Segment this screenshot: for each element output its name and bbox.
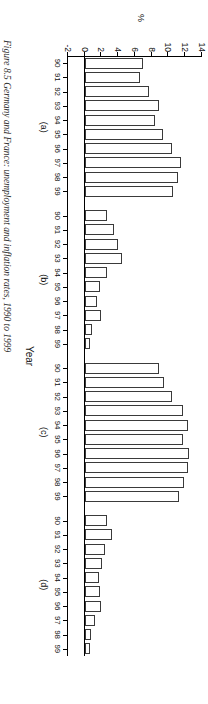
x-tick-label: 95 <box>53 282 61 291</box>
bar <box>85 296 98 307</box>
x-tick-label: 90 <box>53 364 61 373</box>
x-tick-label: 93 <box>53 559 61 568</box>
y-tick-label: 10 <box>164 43 173 52</box>
bar <box>85 572 99 583</box>
panel-label-b: (b) <box>39 274 48 285</box>
x-tick-label: 91 <box>53 225 61 234</box>
x-tick-label: 94 <box>53 573 61 582</box>
panel-label-d: (d) <box>39 579 48 590</box>
x-tick-label: 91 <box>53 378 61 387</box>
bar-chart-figure: % -20246810121490919293949596979899(a)90… <box>0 0 208 704</box>
x-tick-label: 98 <box>53 325 61 334</box>
x-tick-label: 93 <box>53 406 61 415</box>
y-tick-label: 0 <box>81 47 90 52</box>
bar <box>85 515 108 526</box>
bar <box>85 643 90 654</box>
bar <box>85 129 164 140</box>
plot-area: -20246810121490919293949596979899(a)9091… <box>68 56 202 656</box>
x-tick-label: 98 <box>53 630 61 639</box>
x-tick-label: 99 <box>53 339 61 348</box>
x-tick-label: 93 <box>53 101 61 110</box>
panel-label-c: (c) <box>39 427 48 438</box>
bar <box>85 186 173 197</box>
bar <box>85 405 183 416</box>
chart-panel-c: 90919293949596979899(c) <box>68 361 202 504</box>
y-axis-label: % <box>136 8 146 28</box>
panel-label-a: (a) <box>39 122 48 133</box>
x-tick-label: 98 <box>53 478 61 487</box>
x-tick-label: 96 <box>53 144 61 153</box>
bar <box>85 615 95 626</box>
bar <box>85 601 102 612</box>
rotated-page-wrapper: % -20246810121490919293949596979899(a)90… <box>0 0 208 704</box>
bar <box>85 491 180 502</box>
y-tick-label: 8 <box>148 47 157 52</box>
x-tick-label: 91 <box>53 73 61 82</box>
bar <box>85 224 114 235</box>
bar <box>85 310 101 321</box>
x-tick-label: 92 <box>53 392 61 401</box>
x-tick-label: 97 <box>53 463 61 472</box>
x-tick-label: 97 <box>53 311 61 320</box>
figure-caption: Figure 8.5 Germany and France: unemploym… <box>2 40 12 680</box>
x-tick-label: 90 <box>53 211 61 220</box>
bar <box>85 420 188 431</box>
y-tick-label: -2 <box>64 44 73 52</box>
y-tick-label: 4 <box>114 47 123 52</box>
y-tick-label: 2 <box>97 47 106 52</box>
bar <box>85 477 184 488</box>
bar <box>85 391 172 402</box>
x-tick-label: 96 <box>53 602 61 611</box>
x-tick-label: 92 <box>53 87 61 96</box>
x-tick-label: 94 <box>53 421 61 430</box>
x-tick-label: 99 <box>53 644 61 653</box>
bar <box>85 434 183 445</box>
x-tick-label: 92 <box>53 240 61 249</box>
x-tick-label: 95 <box>53 435 61 444</box>
bar <box>85 629 91 640</box>
x-tick-label: 95 <box>53 587 61 596</box>
x-tick-label: 94 <box>53 268 61 277</box>
chart-panel-d: 90919293949596979899(d) <box>68 514 202 657</box>
x-tick-label: 91 <box>53 530 61 539</box>
bar <box>85 544 105 555</box>
bar <box>85 267 108 278</box>
chart-panel-a: 90919293949596979899(a) <box>68 56 202 199</box>
bar <box>85 324 93 335</box>
bar <box>85 115 155 126</box>
bar <box>85 377 165 388</box>
bar <box>85 586 100 597</box>
bar <box>85 338 90 349</box>
x-tick-label: 92 <box>53 545 61 554</box>
bar <box>85 281 100 292</box>
y-tick-label: 6 <box>131 47 140 52</box>
bar <box>85 72 140 83</box>
x-tick-label: 99 <box>53 492 61 501</box>
bar <box>85 157 181 168</box>
bar <box>85 363 160 374</box>
x-tick-label: 99 <box>53 187 61 196</box>
x-tick-label: 90 <box>53 516 61 525</box>
bar <box>85 86 149 97</box>
x-axis-line <box>67 56 68 656</box>
x-tick-label: 94 <box>53 116 61 125</box>
bar <box>85 100 160 111</box>
x-tick-label: 98 <box>53 173 61 182</box>
bar <box>85 462 188 473</box>
x-tick-label: 90 <box>53 59 61 68</box>
bar <box>85 529 112 540</box>
bar <box>85 58 144 69</box>
bar <box>85 558 103 569</box>
bar <box>85 172 178 183</box>
x-tick-label: 96 <box>53 449 61 458</box>
y-tick-label: 14 <box>198 43 207 52</box>
x-tick-label: 95 <box>53 130 61 139</box>
figure-page: % -20246810121490919293949596979899(a)90… <box>0 0 208 704</box>
x-tick-label: 97 <box>53 616 61 625</box>
bar <box>85 253 122 264</box>
x-axis-label: Year <box>24 346 34 366</box>
bar <box>85 239 119 250</box>
bar <box>85 448 189 459</box>
x-tick-label: 97 <box>53 158 61 167</box>
y-tick-label: 12 <box>181 43 190 52</box>
